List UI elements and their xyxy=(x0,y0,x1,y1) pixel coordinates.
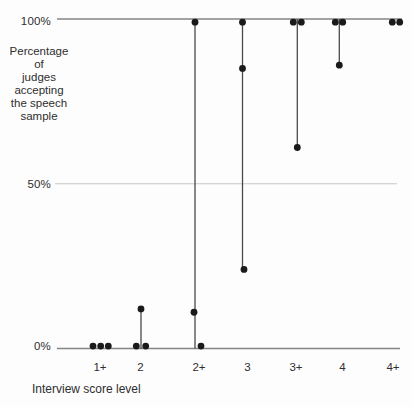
x-axis-title: Interview score level xyxy=(32,383,141,396)
data-point-1+ xyxy=(97,343,104,350)
x-tick-4plus: 4+ xyxy=(378,361,408,374)
x-tick-4: 4 xyxy=(328,361,358,374)
data-point-3 xyxy=(239,65,246,72)
x-tick-2: 2 xyxy=(126,361,156,374)
data-point-4+ xyxy=(396,19,403,26)
data-point-3 xyxy=(241,266,248,273)
x-tick-1plus: 1+ xyxy=(85,361,115,374)
data-point-2+ xyxy=(191,309,198,316)
data-point-2+ xyxy=(198,343,205,350)
x-tick-3plus: 3+ xyxy=(281,361,311,374)
data-point-3+ xyxy=(290,19,297,26)
data-point-1+ xyxy=(90,343,97,350)
data-point-2 xyxy=(133,343,140,350)
data-point-3+ xyxy=(294,144,301,151)
data-point-4 xyxy=(336,62,343,69)
data-point-2 xyxy=(138,306,145,313)
data-point-2+ xyxy=(192,19,199,26)
acceptance-chart-figure: 100% 50% 0% Percentage of judges accepti… xyxy=(0,0,412,407)
x-tick-2plus: 2+ xyxy=(184,361,214,374)
data-point-2 xyxy=(142,343,149,350)
data-point-3+ xyxy=(298,19,305,26)
data-point-4 xyxy=(332,19,339,26)
x-tick-3: 3 xyxy=(233,361,263,374)
data-point-1+ xyxy=(105,343,112,350)
data-point-4 xyxy=(339,19,346,26)
data-point-3 xyxy=(239,19,246,26)
data-point-4+ xyxy=(389,19,396,26)
plot-area xyxy=(0,0,412,407)
